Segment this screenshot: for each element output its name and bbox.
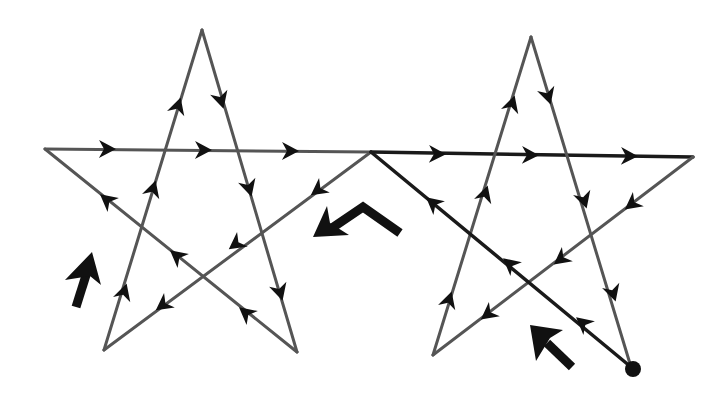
left-edge-bottomright-to-left <box>45 149 297 352</box>
arrowhead-icon <box>167 95 189 117</box>
left-edge-junction-to-bottomleft <box>104 152 371 350</box>
middle-bent-arrow <box>313 206 400 237</box>
bent-arrow-shaft <box>332 207 400 233</box>
arrowhead-icon <box>142 178 164 200</box>
arrow-shaft <box>547 343 572 367</box>
right-star <box>371 37 693 367</box>
arrowhead-icon <box>570 310 595 335</box>
start-dot <box>625 361 641 377</box>
pentagram-path-diagram <box>0 0 727 403</box>
arrowhead-icon <box>238 178 260 199</box>
right-star-up-left-arrow <box>530 325 572 367</box>
left-star-up-arrow <box>65 252 101 307</box>
right-edge-start-to-junction <box>371 152 631 367</box>
